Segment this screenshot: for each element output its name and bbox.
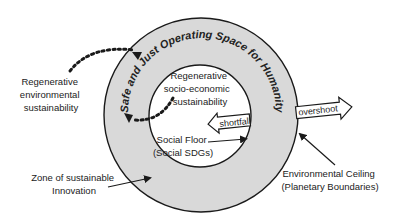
regenerative-env-label: Regenerative environmental sustainabilit… <box>20 76 82 113</box>
regenerative-socio-label: Regenerative socio-economic sustainabili… <box>164 70 233 107</box>
overshoot-arrow: overshoot <box>295 96 353 124</box>
safe-and-just-space-diagram: Safe and Just Operating Space for Humani… <box>0 0 396 223</box>
environmental-ceiling-label: Environmental Ceiling (Planetary Boundar… <box>281 168 378 192</box>
environmental-ceiling-pointer-arrow <box>300 134 335 165</box>
zone-innovation-label: Zone of sustainable Innovation <box>31 172 117 196</box>
